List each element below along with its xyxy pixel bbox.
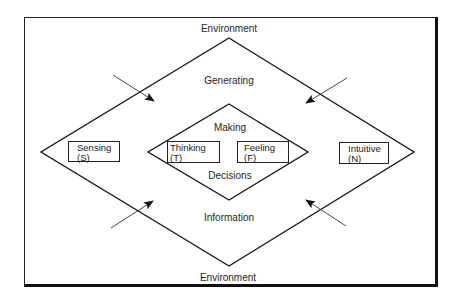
arrow-bottom-left <box>111 201 153 228</box>
label-environment-bottom: Environment <box>200 272 256 283</box>
box-thinking: Thinking (T) <box>167 141 220 163</box>
arrow-top-right <box>306 78 347 103</box>
box-sensing-code: (S) <box>77 153 119 163</box>
box-thinking-code: (T) <box>170 153 219 163</box>
box-intuitive-code: (N) <box>348 154 388 164</box>
label-information: Information <box>204 212 254 223</box>
box-feeling-code: (F) <box>244 153 288 163</box>
label-making: Making <box>214 122 246 133</box>
arrow-bottom-right <box>306 200 346 226</box>
box-feeling: Feeling (F) <box>237 141 289 163</box>
label-decisions: Decisions <box>208 170 251 181</box>
box-sensing: Sensing (S) <box>68 141 120 162</box>
label-environment-top: Environment <box>201 23 257 34</box>
box-intuitive: Intuitive (N) <box>339 142 389 164</box>
label-generating: Generating <box>204 75 253 86</box>
